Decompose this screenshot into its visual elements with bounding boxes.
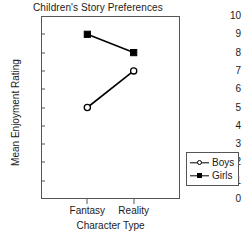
open-circle-marker-icon [190,157,209,168]
y-tick-mark [41,180,45,181]
filled-square-marker-icon [190,170,209,181]
y-tick-label: 5 [235,103,241,113]
y-tick-label: 9 [235,29,241,39]
chart-legend: Boys Girls [186,152,239,186]
y-axis-title: Mean Enjoyment Rating [10,33,21,193]
y-tick-mark [41,125,45,126]
chart-title: Children's Story Preferences [33,2,163,14]
y-tick-mark [41,34,45,35]
y-tick-mark [41,52,45,53]
plot-area [41,16,180,199]
chart-figure: Children's Story Preferences Mean Enjoym… [0,0,247,238]
legend-label-boys: Boys [209,157,234,168]
y-axis [0,16,41,199]
y-tick-mark [41,144,45,145]
x-tick-mark [87,199,88,204]
y-tick-mark [41,162,45,163]
y-tick-label: 8 [235,48,241,58]
legend-item-girls: Girls [190,169,234,182]
y-tick-label: 3 [235,139,241,149]
y-tick-mark [41,107,45,108]
legend-item-boys: Boys [190,156,234,169]
y-tick-label: 6 [235,84,241,94]
y-tick-label: 4 [235,121,241,131]
y-tick-label: 7 [235,66,241,76]
legend-label-girls: Girls [209,170,233,181]
x-tick-label: Fantasy [70,205,106,217]
x-tick-label: Reality [118,205,149,217]
y-tick-label: 0 [235,194,241,204]
y-tick-label: 10 [230,11,241,21]
x-tick-mark [133,199,134,204]
y-tick-mark [41,70,45,71]
y-tick-mark [41,89,45,90]
x-axis-title: Character Type [41,220,180,232]
